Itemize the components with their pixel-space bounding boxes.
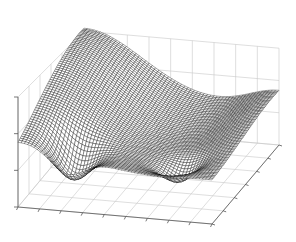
y-tick <box>234 198 237 199</box>
x-tick <box>146 218 148 221</box>
x-tick <box>189 222 191 225</box>
floor-gridline <box>40 181 234 198</box>
y-tick <box>257 171 260 172</box>
y-tick <box>212 224 215 225</box>
surface-plot <box>0 0 296 242</box>
y-tick <box>223 211 226 212</box>
y-tick <box>268 158 271 159</box>
x-axis <box>18 207 212 224</box>
surface-plot-figure <box>0 0 296 242</box>
x-tick <box>103 215 105 218</box>
x-tick <box>60 211 62 214</box>
x-tick <box>211 224 213 227</box>
mesh-surface <box>18 28 279 182</box>
x-tick <box>124 216 126 219</box>
y-tick <box>246 185 249 186</box>
y-tick <box>279 145 282 146</box>
x-tick <box>167 220 169 223</box>
x-tick <box>17 207 19 210</box>
x-tick <box>81 213 83 216</box>
x-tick <box>38 209 40 212</box>
floor-gridline <box>29 194 223 211</box>
